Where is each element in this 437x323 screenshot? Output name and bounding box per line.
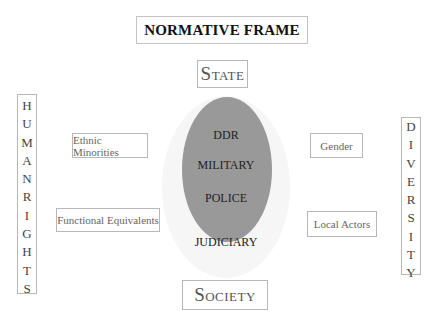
ethnic-minorities-label: Ethnic Minorities: [73, 134, 147, 158]
title-box: NORMATIVE FRAME: [136, 16, 308, 44]
letter: I: [409, 136, 413, 154]
letter: V: [406, 155, 415, 173]
letter: U: [22, 115, 31, 133]
letter: A: [22, 152, 31, 170]
ethnic-minorities-box: Ethnic Minorities: [72, 133, 148, 158]
letter: H: [22, 97, 31, 115]
gender-label: Gender: [320, 140, 352, 152]
letter: R: [407, 191, 416, 209]
state-node: State: [197, 60, 248, 88]
state-label: State: [201, 63, 245, 85]
letter: N: [22, 170, 31, 188]
letter: I: [409, 228, 413, 246]
core-judiciary: JUDICIARY: [176, 235, 276, 250]
diagram-title: NORMATIVE FRAME: [144, 22, 300, 39]
core-ddr: DDR: [176, 128, 276, 143]
core-police: POLICE: [176, 191, 276, 206]
human-rights-bar: H U M A N R I G H T S: [17, 94, 37, 294]
letter: H: [22, 243, 31, 261]
core-military: MILITARY: [176, 158, 276, 173]
letter: S: [407, 209, 414, 227]
gender-box: Gender: [310, 133, 363, 158]
letter: I: [25, 207, 29, 225]
letter: E: [407, 173, 415, 191]
letter: R: [23, 188, 32, 206]
functional-equivalents-label: Functional Equivalents: [57, 214, 159, 226]
local-actors-box: Local Actors: [307, 211, 377, 237]
letter: Y: [406, 264, 415, 282]
letter: S: [23, 280, 30, 298]
society-label: Society: [194, 284, 256, 306]
letter: T: [407, 246, 415, 264]
letter: G: [22, 225, 31, 243]
letter: M: [21, 134, 33, 152]
letter: T: [23, 262, 31, 280]
letter: D: [406, 118, 415, 136]
local-actors-label: Local Actors: [314, 218, 371, 230]
society-node: Society: [182, 280, 268, 310]
functional-equivalents-box: Functional Equivalents: [56, 208, 160, 232]
diversity-bar: D I V E R S I T Y: [401, 117, 421, 275]
